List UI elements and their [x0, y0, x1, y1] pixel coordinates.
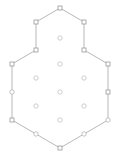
graph-edge [60, 134, 84, 148]
graph-node-top-vertex[interactable] [58, 6, 62, 10]
node-layer [10, 6, 110, 150]
graph-figure [0, 0, 120, 160]
graph-edge [84, 120, 108, 134]
graph-node-lower-left-bend[interactable] [34, 132, 38, 136]
graph-node-interior-lower-right[interactable] [82, 104, 86, 108]
graph-node-left-lower[interactable] [10, 118, 14, 122]
graph-node-interior-center[interactable] [58, 90, 62, 94]
graph-edge [36, 134, 60, 148]
graph-node-interior-upper-center[interactable] [58, 62, 62, 66]
graph-edge [12, 120, 36, 134]
graph-node-upper-left-bend[interactable] [34, 20, 38, 24]
graph-node-right-mid[interactable] [106, 90, 110, 94]
graph-node-interior-bottom[interactable] [58, 118, 62, 122]
graph-node-interior-upper-right[interactable] [82, 76, 86, 80]
graph-node-left-upper-mid[interactable] [34, 48, 38, 52]
graph-node-lower-right-bend[interactable] [82, 132, 86, 136]
graph-svg [0, 0, 120, 160]
graph-node-interior-lower-left[interactable] [34, 104, 38, 108]
graph-node-interior-upper-left[interactable] [34, 76, 38, 80]
graph-node-right-upper-mid[interactable] [82, 48, 86, 52]
graph-node-right-vertex[interactable] [106, 62, 110, 66]
graph-node-right-lower[interactable] [106, 118, 110, 122]
graph-edge [36, 8, 60, 22]
graph-node-left-mid[interactable] [10, 90, 14, 94]
graph-edge [60, 8, 84, 22]
edge-layer [12, 8, 108, 148]
graph-node-bottom-vertex[interactable] [58, 146, 62, 150]
graph-node-interior-top[interactable] [58, 36, 62, 40]
graph-edge [84, 50, 108, 64]
graph-edge [12, 50, 36, 64]
graph-node-upper-right-bend[interactable] [82, 20, 86, 24]
graph-node-left-vertex[interactable] [10, 62, 14, 66]
